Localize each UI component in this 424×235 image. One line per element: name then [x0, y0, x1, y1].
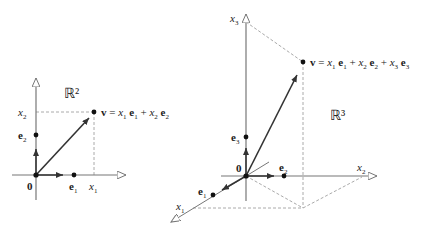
- origin-dot: [33, 172, 38, 177]
- e2-dot: [34, 133, 39, 138]
- v-arrow: [36, 118, 89, 175]
- x1-axis-label: x1: [88, 180, 98, 195]
- e1-dot: [72, 173, 77, 178]
- x1-axis-label-3d: x1: [175, 200, 185, 215]
- e2-label: e2: [18, 129, 27, 144]
- origin-dot-3d: [243, 173, 248, 178]
- v-dot-3d: [301, 60, 306, 65]
- v-equation-r2: v = x1 e1 + x2 e2: [101, 106, 170, 121]
- x3-axis-label: x3: [229, 12, 239, 27]
- r2-space-label: ℝ²: [64, 86, 79, 101]
- e1-arrow-3d: [222, 176, 246, 190]
- v-dot: [92, 110, 97, 115]
- e1-label-3d: e1: [198, 185, 207, 200]
- x2-guide-line-3d: [303, 177, 362, 208]
- x1-axis: [171, 162, 269, 222]
- v-equation-r3: v = x1 e1 + x2 e2 + x3 e3: [310, 56, 410, 71]
- x3-guide-line: [246, 22, 303, 62]
- e1-dot-3d: [211, 193, 216, 198]
- e3-label: e3: [231, 131, 240, 146]
- r2-diagram: ℝ² x2 e2 0 e1 x1 v = x1 e1 + x2 e2: [12, 78, 170, 200]
- projection-guide-line: [246, 176, 303, 208]
- r3-space-label: ℝ³: [330, 108, 345, 123]
- origin-label-3d: 0: [236, 162, 242, 174]
- x2-axis-label-3d: x2: [356, 161, 366, 176]
- r3-diagram: ℝ³ x3 e3 0 e2 x2 e1 x1 v = x1 e1 + x2 e2…: [171, 12, 410, 222]
- v-arrow-3d: [246, 75, 297, 176]
- e3-dot: [244, 135, 249, 140]
- e1-label: e1: [69, 180, 78, 195]
- vector-diagram: ℝ² x2 e2 0 e1 x1 v = x1 e1 + x2 e2: [0, 0, 424, 235]
- e2-label-3d: e2: [279, 161, 288, 176]
- x2-axis-label: x2: [17, 106, 27, 121]
- origin-label: 0: [27, 180, 33, 192]
